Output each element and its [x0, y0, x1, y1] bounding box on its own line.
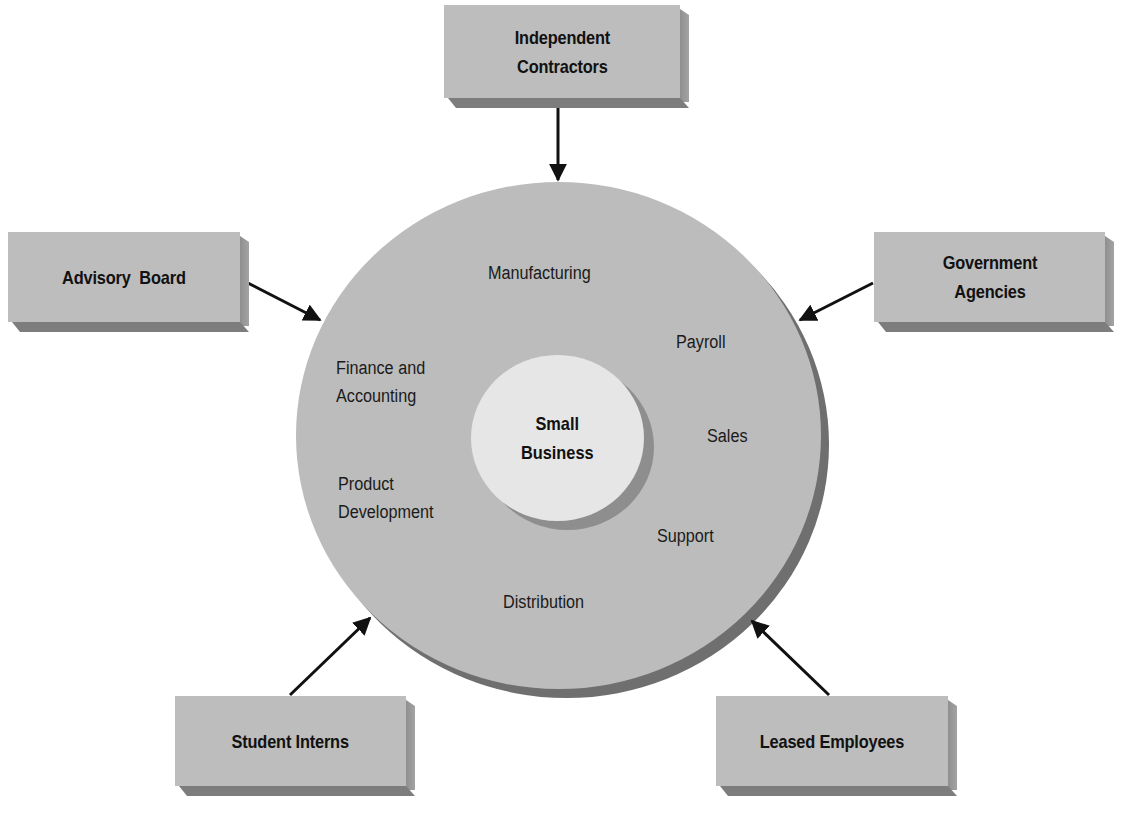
function-finance-accounting: Finance and Accounting: [336, 354, 425, 410]
box-label: Government Agencies: [942, 248, 1037, 306]
function-payroll: Payroll: [676, 328, 726, 356]
core-label: Small Business: [521, 409, 594, 467]
box-label: Student Interns: [232, 727, 349, 756]
function-product-development: Product Development: [338, 470, 433, 526]
bevel-right: [1105, 236, 1114, 326]
box-label: Leased Employees: [760, 727, 904, 756]
box-face: Government Agencies: [874, 232, 1105, 322]
box-advisory-board: Advisory Board: [8, 232, 249, 332]
bevel-right: [406, 700, 415, 790]
function-distribution: Distribution: [503, 588, 584, 616]
box-government-agencies: Government Agencies: [874, 232, 1114, 332]
box-leased-employees: Leased Employees: [716, 696, 957, 796]
bevel-right: [948, 700, 957, 790]
arrow-advisory-board: [244, 281, 320, 320]
small-business-core: Small Business: [471, 355, 644, 521]
box-face: Student Interns: [175, 696, 406, 786]
box-label: Independent Contractors: [514, 23, 609, 81]
bevel-bottom: [179, 786, 415, 796]
small-business-diagram: Small Business Manufacturing Payroll Fin…: [0, 0, 1123, 814]
box-independent-contractors: Independent Contractors: [444, 5, 689, 108]
arrow-leased-employees: [752, 621, 829, 695]
bevel-bottom: [720, 786, 957, 796]
box-label: Advisory Board: [62, 263, 186, 292]
box-face: Advisory Board: [8, 232, 240, 322]
arrow-government: [800, 283, 873, 320]
box-student-interns: Student Interns: [175, 696, 415, 796]
bevel-bottom: [12, 322, 249, 332]
function-manufacturing: Manufacturing: [488, 259, 591, 287]
function-support: Support: [657, 522, 714, 550]
arrow-student-interns: [290, 618, 370, 695]
bevel-right: [680, 9, 689, 102]
function-sales: Sales: [707, 422, 748, 450]
bevel-bottom: [448, 98, 689, 108]
box-face: Independent Contractors: [444, 5, 680, 98]
bevel-right: [240, 236, 249, 326]
bevel-bottom: [878, 322, 1114, 332]
box-face: Leased Employees: [716, 696, 948, 786]
